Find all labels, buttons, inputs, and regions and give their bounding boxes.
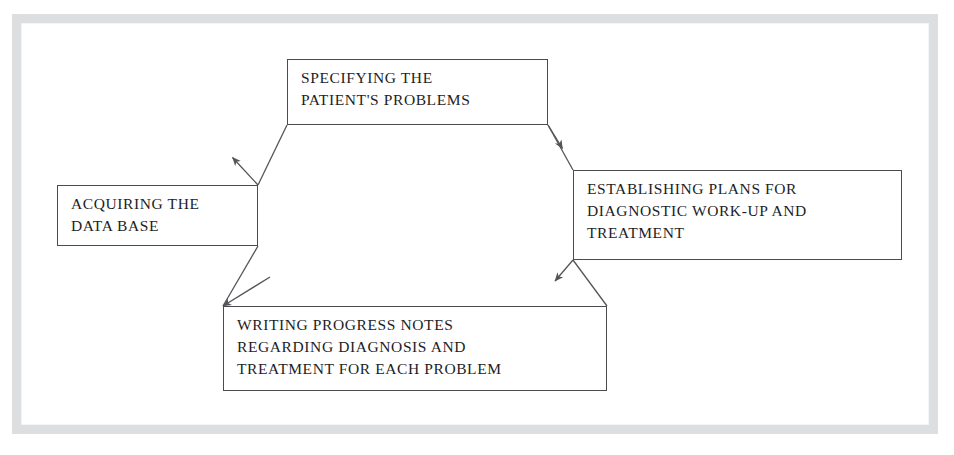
connector-acquiring-to-specifying [233, 125, 288, 185]
node-writing-progress-notes: WRITING PROGRESS NOTES REGARDING DIAGNOS… [223, 306, 607, 391]
connector-establishing-to-writing [555, 260, 607, 306]
node-specifying-patient-problems: SPECIFYING THE PATIENT'S PROBLEMS [287, 59, 548, 125]
node-acquiring-data-base: ACQUIRING THE DATA BASE [57, 185, 258, 246]
connector-specifying-to-establishing [548, 125, 573, 170]
connector-writing-to-acquiring [223, 246, 270, 306]
diagram-canvas: SPECIFYING THE PATIENT'S PROBLEMS ACQUIR… [0, 0, 954, 455]
node-establishing-plans: ESTABLISHING PLANS FOR DIAGNOSTIC WORK-U… [573, 170, 902, 260]
